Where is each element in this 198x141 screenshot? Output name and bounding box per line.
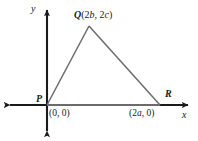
vertex-r-coordinates: (2a, 0) xyxy=(129,109,154,119)
vertex-q-label: Q(2b, 2c) xyxy=(74,10,112,20)
vertex-p-coordinates: (0, 0) xyxy=(49,109,70,119)
vertex-r-coord-close: , 0) xyxy=(142,108,155,118)
y-axis-label: y xyxy=(31,4,35,14)
vertex-p-label: P xyxy=(36,94,42,104)
triangle-side-qr xyxy=(89,26,160,105)
triangle-pqr xyxy=(47,26,160,105)
triangle-side-pq xyxy=(47,26,89,105)
vertex-q-close-paren: ) xyxy=(109,9,112,20)
figure-canvas xyxy=(0,0,198,141)
vertex-r-coord-open: (2 xyxy=(129,108,137,118)
vertex-r-label: R xyxy=(165,89,172,99)
coordinate-geometry-figure: y x Q(2b, 2c) P R (0, 0) (2a, 0) xyxy=(0,0,198,141)
x-axis-label: x xyxy=(182,110,186,120)
